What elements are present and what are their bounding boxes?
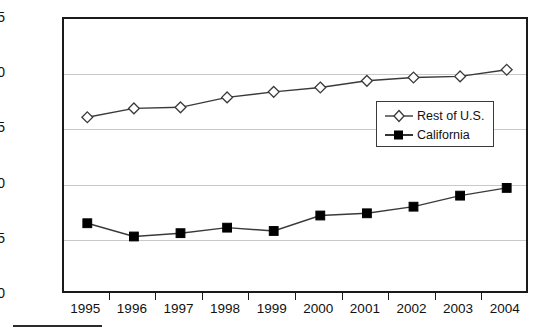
legend-entry-rest-of-us: Rest of U.S. (377, 106, 493, 125)
y-tick-label-75: 75 (0, 10, 5, 24)
data-point-california-1999 (269, 227, 278, 236)
data-point-rest-of-u-s-1997 (175, 102, 186, 113)
x-tick-mark-7 (388, 293, 389, 300)
data-point-rest-of-u-s-2004 (501, 64, 512, 75)
footer-divider-rule (13, 325, 102, 327)
legend-label-rest-of-us: Rest of U.S. (414, 109, 484, 123)
data-point-rest-of-u-s-2003 (455, 71, 466, 82)
open-diamond-marker-icon (384, 109, 414, 123)
data-point-california-2003 (456, 191, 465, 200)
legend-entry-california: California (377, 125, 493, 144)
y-tick-label-65: 65 (0, 120, 5, 134)
data-point-rest-of-u-s-1998 (222, 92, 233, 103)
filled-square-marker-icon (384, 128, 414, 142)
data-point-california-2000 (316, 211, 325, 220)
x-tick-mark-1 (109, 293, 110, 300)
y-tick-label-55: 55 (0, 231, 5, 245)
legend-label-california: California (414, 128, 470, 142)
data-point-rest-of-u-s-2002 (408, 72, 419, 83)
chart-figure: Percentage 505560657075 1995199619971998… (0, 0, 543, 331)
x-tick-mark-9 (481, 293, 482, 300)
data-point-california-2004 (502, 184, 511, 193)
data-point-california-1998 (223, 223, 232, 232)
data-point-rest-of-u-s-1995 (82, 112, 93, 123)
data-point-rest-of-u-s-1999 (268, 86, 279, 97)
plot-frame (62, 17, 528, 293)
data-point-rest-of-u-s-2001 (362, 75, 373, 86)
x-tick-mark-6 (342, 293, 343, 300)
data-point-california-1997 (176, 229, 185, 238)
y-tick-label-50: 50 (0, 286, 5, 300)
chart-legend: Rest of U.S. California (376, 101, 494, 147)
data-point-california-2001 (363, 209, 372, 218)
y-tick-label-60: 60 (0, 176, 5, 190)
x-tick-mark-2 (155, 293, 156, 300)
data-point-california-1996 (130, 232, 139, 241)
x-tick-mark-8 (435, 293, 436, 300)
series-line-california (87, 188, 506, 237)
x-tick-mark-5 (295, 293, 296, 300)
data-point-california-1995 (83, 219, 92, 228)
x-tick-label-2004: 2004 (478, 302, 532, 316)
data-point-rest-of-u-s-2000 (315, 82, 326, 93)
x-tick-mark-4 (248, 293, 249, 300)
plot-area (64, 19, 526, 291)
data-point-rest-of-u-s-1996 (129, 103, 140, 114)
data-point-california-2002 (409, 202, 418, 211)
y-tick-label-70: 70 (0, 65, 5, 79)
series-layer (64, 19, 530, 295)
x-tick-mark-3 (202, 293, 203, 300)
